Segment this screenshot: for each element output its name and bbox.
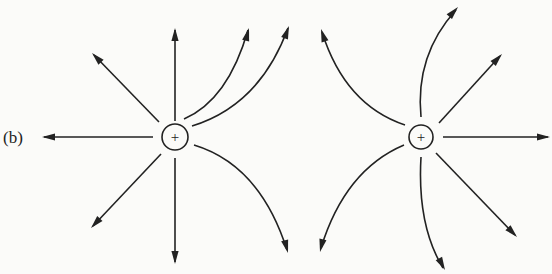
field-line-diagram: (b) ++ <box>0 0 552 274</box>
arrowhead-icon <box>281 25 292 40</box>
charge-right: + <box>409 125 433 149</box>
field-line-left-5 <box>184 30 248 119</box>
arrowhead-icon <box>171 251 178 264</box>
arrowhead-icon <box>171 28 178 41</box>
field-line-right-9 <box>321 145 404 248</box>
charge-left: + <box>162 124 188 150</box>
arrowhead-icon <box>281 240 291 254</box>
arrowhead-icon <box>242 27 252 41</box>
charges-group: ++ <box>162 124 433 150</box>
field-line-right-10 <box>420 10 456 117</box>
field-line-right-14 <box>420 157 443 268</box>
field-line-right-11 <box>439 56 500 123</box>
charge-sign: + <box>171 129 179 145</box>
arrowhead-icon <box>537 133 550 140</box>
field-line-left-7 <box>194 145 287 250</box>
field-lines-group <box>42 5 550 272</box>
field-lines-svg: (b) ++ <box>0 0 552 274</box>
charge-sign: + <box>417 129 425 145</box>
arrowhead-icon <box>318 28 329 43</box>
field-line-right-8 <box>322 32 405 125</box>
field-line-left-1 <box>94 55 159 122</box>
arrowhead-icon <box>316 239 326 253</box>
field-line-left-6 <box>192 28 288 126</box>
arrowhead-icon <box>42 133 55 140</box>
field-line-right-13 <box>436 153 515 235</box>
panel-label: (b) <box>3 128 23 147</box>
arrowhead-icon <box>447 5 461 19</box>
field-line-left-3 <box>93 154 161 226</box>
